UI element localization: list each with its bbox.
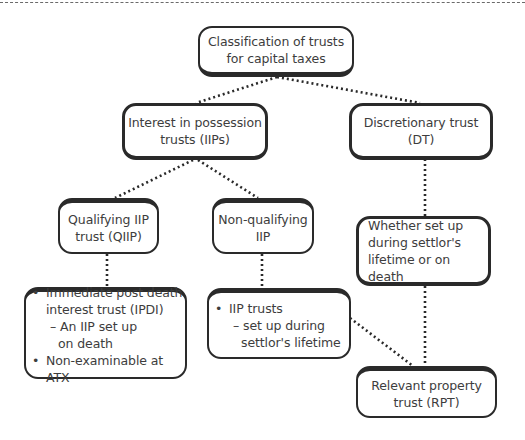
node-whether-set-up: Whether set up during settlor's lifetime… [356, 216, 491, 286]
bullet-item-ipdi: • Immediate post death interest trust (I… [30, 284, 185, 352]
node-discretionary-trust: Discretionary trust (DT) [349, 103, 493, 160]
node-text-line: trusts (IIPs) [128, 131, 262, 148]
edge-root-dt [277, 77, 420, 103]
bullet-list: • IIP trusts – set up during settlor's l… [213, 300, 341, 351]
sub-bullet-text-line: on death [46, 335, 185, 352]
bullet-text-line: interest trust (IPDI) [46, 301, 185, 318]
bullet-icon: • [32, 284, 39, 301]
node-non-qualifying-iip: Non-qualifying IIP [212, 198, 314, 254]
bullet-text-line: Immediate post death [46, 284, 185, 301]
node-iip-trusts-list: • IIP trusts – set up during settlor's l… [207, 288, 351, 359]
node-text-line: Whether set up [368, 217, 488, 234]
node-text-line: lifetime or on death [368, 251, 488, 285]
bullet-text-line: IIP trusts [229, 300, 341, 317]
node-interest-in-possession: Interest in possession trusts (IIPs) [122, 103, 268, 160]
node-text-line: Interest in possession [128, 114, 262, 131]
edge-iiptrusts-rpt [350, 318, 413, 366]
node-ipdi-list: • Immediate post death interest trust (I… [24, 287, 187, 379]
diagram-canvas: Classification of trusts for capital tax… [0, 0, 525, 440]
bullet-icon: • [215, 300, 222, 317]
sub-bullet-text-line: settlor's lifetime [229, 334, 341, 351]
node-text-line: Relevant property [371, 377, 482, 394]
node-text-line: Non-qualifying [218, 211, 307, 228]
edge-root-iip [196, 77, 277, 103]
node-text-line: Qualifying IIP [68, 211, 149, 228]
node-text-line: during settlor's [368, 234, 488, 251]
node-relevant-property-trust: Relevant property trust (RPT) [356, 366, 497, 418]
bullet-icon: • [32, 352, 39, 369]
node-text-line: for capital taxes [208, 50, 344, 67]
node-text-line: trust (RPT) [371, 394, 482, 411]
node-text-line: IIP [218, 228, 307, 245]
sub-bullet-text-line: – An IIP set up [46, 318, 185, 335]
node-text-line: Discretionary trust [364, 114, 479, 131]
node-text-line: Classification of trusts [208, 33, 344, 50]
node-classification-root: Classification of trusts for capital tax… [198, 26, 354, 77]
node-qualifying-iip: Qualifying IIP trust (QIIP) [58, 198, 159, 254]
sub-bullet-text-line: – set up during [229, 317, 341, 334]
bullet-text-line: Non-examinable at ATX [46, 352, 185, 386]
bullet-item-non-examinable: • Non-examinable at ATX [30, 352, 185, 386]
edge-iip-qiip [115, 160, 193, 198]
bullet-item-iip-trusts: • IIP trusts – set up during settlor's l… [213, 300, 341, 351]
bullet-list: • Immediate post death interest trust (I… [30, 284, 185, 386]
node-text-line: trust (QIIP) [68, 228, 149, 245]
edge-iip-nqiip [198, 160, 258, 198]
node-text-line: (DT) [364, 131, 479, 148]
